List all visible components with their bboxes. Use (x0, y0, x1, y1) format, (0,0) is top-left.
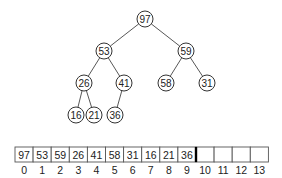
node-value: 59 (180, 46, 192, 57)
cell-index: 6 (130, 164, 136, 176)
tree-node: 53 (96, 43, 112, 59)
cell-index: 4 (94, 164, 100, 176)
node-value: 53 (98, 46, 110, 57)
tree-node: 31 (199, 75, 215, 91)
cell-value: 59 (54, 149, 66, 161)
cell-index: 7 (148, 164, 154, 176)
tree-node: 36 (107, 107, 123, 123)
cell-index: 9 (184, 164, 190, 176)
heap-diagram: 97535926415831162136 9705315922634145853… (0, 0, 282, 178)
array-cell: 414 (87, 147, 105, 176)
cell-value: 97 (18, 149, 30, 161)
node-value: 31 (201, 78, 213, 89)
tree-edge (110, 24, 138, 46)
array-cell: 263 (69, 147, 87, 176)
node-value: 58 (160, 78, 172, 89)
cell-index: 2 (57, 164, 63, 176)
tree-node: 59 (178, 43, 194, 59)
tree-edge (78, 91, 82, 107)
tree-edge (151, 24, 179, 46)
tree-edge (108, 58, 120, 76)
array-cell: 369 (178, 147, 196, 176)
tree-node: 16 (68, 107, 84, 123)
tree-node: 21 (86, 107, 102, 123)
node-value: 26 (78, 78, 90, 89)
cell-index: 1 (39, 164, 45, 176)
node-value: 36 (109, 110, 121, 121)
node-value: 21 (88, 110, 100, 121)
cell-value: 41 (91, 149, 103, 161)
cell-value: 36 (181, 149, 193, 161)
array-cell: 592 (51, 147, 69, 176)
cell-index: 12 (235, 164, 247, 176)
cell-index: 11 (218, 164, 229, 176)
tree-edges (78, 24, 203, 107)
cell-index: 13 (254, 164, 266, 176)
tree-edge (86, 91, 91, 108)
node-value: 97 (139, 14, 151, 25)
cell-index: 5 (112, 164, 118, 176)
cell-index: 0 (21, 164, 27, 176)
cell-index: 3 (75, 164, 81, 176)
array-cell: 585 (106, 147, 124, 176)
array-cell: 11 (214, 147, 232, 176)
cell-index: 10 (199, 164, 211, 176)
tree-node: 58 (158, 75, 174, 91)
tree-node: 97 (137, 11, 153, 27)
tree-edge (117, 91, 122, 108)
array-cell: 531 (33, 147, 51, 176)
array-cell: 167 (142, 147, 160, 176)
tree-edge (190, 58, 202, 77)
node-value: 41 (118, 78, 130, 89)
tree-nodes: 97535926415831162136 (68, 11, 215, 123)
cell-value: 16 (145, 149, 157, 161)
cell-index: 8 (166, 164, 172, 176)
array-cell: 13 (250, 147, 268, 176)
tree-node: 26 (76, 75, 92, 91)
cell-value: 58 (109, 149, 121, 161)
cell-value: 21 (163, 149, 175, 161)
cell-value: 31 (127, 149, 139, 161)
tree-node: 41 (116, 75, 132, 91)
array-cell: 10 (196, 147, 214, 176)
tree-edge (170, 58, 182, 76)
tree-edge (88, 58, 100, 76)
array-cell: 316 (124, 147, 142, 176)
array-cell: 970 (15, 147, 33, 176)
node-value: 16 (70, 110, 82, 121)
cell-value: 26 (73, 149, 85, 161)
heap-array: 97053159226341458531616721836910111213 (15, 147, 268, 176)
cell-value: 53 (36, 149, 48, 161)
array-cell: 218 (160, 147, 178, 176)
array-cell: 12 (232, 147, 250, 176)
